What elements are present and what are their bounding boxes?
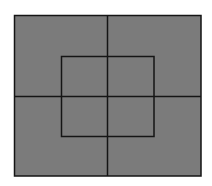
nested-squares-diagram <box>0 0 212 186</box>
diagram-canvas <box>0 0 212 186</box>
